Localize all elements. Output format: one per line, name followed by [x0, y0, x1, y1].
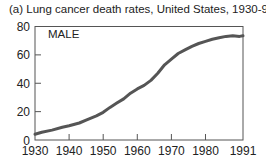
- x-tick-label: 1970: [158, 144, 185, 158]
- plot-frame: [35, 27, 243, 141]
- x-tick-label: 1980: [192, 144, 219, 158]
- y-tick-label: 60: [17, 48, 31, 62]
- x-tick-label: 1930: [22, 144, 49, 158]
- male-death-rate-line: [35, 36, 243, 135]
- y-axis: 020406080: [17, 20, 41, 148]
- line-chart: 020406080 1930194019501960197019801991 M…: [0, 0, 266, 167]
- series-label-male: MALE: [48, 28, 80, 40]
- x-tick-label: 1950: [90, 144, 117, 158]
- y-tick-label: 80: [17, 20, 31, 34]
- x-tick-label: 1940: [56, 144, 83, 158]
- x-tick-label: 1960: [124, 144, 151, 158]
- x-axis: 1930194019501960197019801991: [22, 134, 257, 158]
- x-tick-label: 1991: [230, 144, 257, 158]
- y-tick-label: 20: [17, 105, 31, 119]
- y-tick-label: 40: [17, 77, 31, 91]
